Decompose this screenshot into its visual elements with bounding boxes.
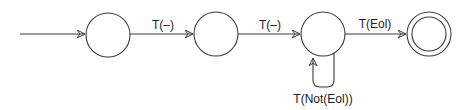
transition-label-s2-s3: T(Eol) — [359, 17, 392, 31]
transition-label-s2-self-loop: T(Not(Eol)) — [293, 92, 352, 106]
state-3-accepting-outer — [407, 12, 451, 56]
state-0-initial — [86, 13, 130, 57]
state-diagram: T(–) T(–) T(Not(Eol)) T(Eol) — [0, 0, 470, 110]
state-1 — [194, 12, 238, 56]
transition-label-s1-s2: T(–) — [259, 18, 281, 32]
transition-label-s0-s1: T(–) — [152, 18, 174, 32]
state-2 — [301, 12, 345, 56]
self-loop-arrow-s2 — [313, 53, 334, 87]
